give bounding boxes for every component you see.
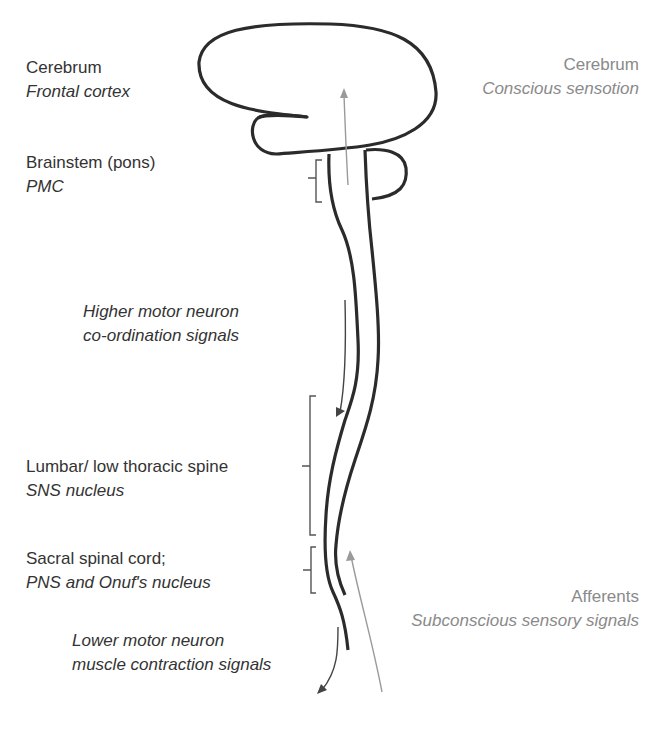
- label-lower-motor-signals: Lower motor neuron muscle contraction si…: [72, 629, 271, 677]
- higher-motor-arrow: [340, 300, 345, 412]
- label-brainstem: Brainstem (pons) PMC: [26, 151, 155, 199]
- sacral-bracket: [303, 547, 316, 593]
- lumbar-bracket: [302, 396, 316, 535]
- afferent-arrow-spinal: [351, 556, 382, 692]
- label-cerebrum-left: Cerebrum Frontal cortex: [26, 56, 130, 104]
- afferent-arrow-cerebrum: [344, 95, 348, 185]
- label-higher-motor-signals: Higher motor neuron co-ordination signal…: [83, 300, 239, 348]
- cerebrum-outline: [199, 24, 436, 154]
- label-afferents: Afferents Subconscious sensory signals: [411, 585, 639, 633]
- label-sacral-spinal-cord: Sacral spinal cord; PNS and Onuf's nucle…: [26, 547, 211, 595]
- label-lumbar-spine: Lumbar/ low thoracic spine SNS nucleus: [26, 455, 228, 503]
- cerebellum-outline: [366, 150, 406, 199]
- label-cerebrum-right: Cerebrum Conscious sensotion: [482, 53, 639, 101]
- brainstem-bracket: [308, 160, 322, 202]
- lower-motor-arrow: [322, 627, 338, 690]
